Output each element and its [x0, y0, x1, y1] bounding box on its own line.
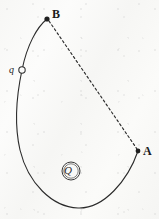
point-a-marker-dot	[136, 149, 141, 154]
charge-q-marker-circle	[19, 67, 25, 73]
point-b-marker-dot	[44, 16, 49, 21]
point-b-label: B	[52, 8, 60, 20]
physics-diagram-figure: B A q Q	[0, 0, 159, 219]
dashed-chord-line	[49, 21, 137, 149]
source-charge-q-label: Q	[64, 165, 72, 176]
point-a-label: A	[143, 145, 152, 157]
curved-path-line	[16, 19, 138, 208]
diagram-canvas	[0, 0, 159, 219]
moving-charge-q-label: q	[9, 65, 14, 75]
